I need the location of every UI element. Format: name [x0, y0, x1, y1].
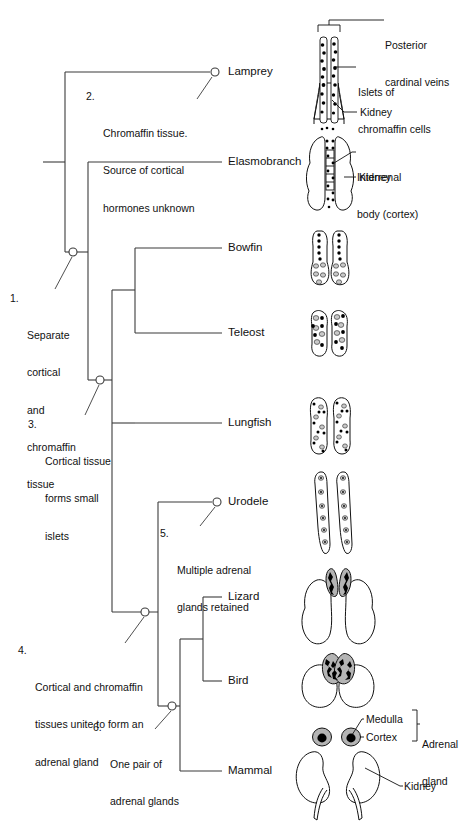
node-circle-lamprey [211, 68, 219, 76]
leader-note-1 [55, 257, 72, 289]
taxon-label-lamprey[interactable]: Lamprey [228, 65, 273, 78]
illus-elasmobranch [306, 127, 356, 210]
note-5: 5. Multiple adrenal glands retained [160, 527, 280, 639]
medulla-left [317, 734, 326, 743]
taxon-label-urodele[interactable]: Urodele [228, 495, 268, 508]
note-1-number: 1. [10, 292, 19, 304]
note-3-line-2: forms small [45, 492, 138, 504]
anno-cortex: Cortex [366, 731, 397, 743]
note-2: 2. Chromaffin tissue. Source of cortical… [86, 90, 236, 239]
illus-bird [302, 653, 374, 707]
anno-medulla: Medulla [366, 713, 403, 725]
note-5-line-2: glands retained [177, 601, 280, 613]
note-3-number: 3. [28, 418, 37, 430]
anno-adrenal-gland: Adrenal gland [422, 713, 458, 812]
note-1-line-3: and [27, 404, 102, 416]
note-2-number: 2. [86, 90, 95, 102]
note-2-line-1: Chromaffin tissue. [103, 127, 236, 139]
anno-kidney-lamprey: Kidney [360, 106, 392, 118]
anno-islets-line-1: Islets of [358, 86, 431, 98]
node-circle-4 [141, 608, 149, 616]
note-3: 3. Cortical tissue forms small islets [28, 418, 138, 567]
taxon-label-lungfish[interactable]: Lungfish [228, 416, 271, 429]
note-6-number: 6. [93, 721, 102, 733]
note-6-line-2: adrenal glands [110, 795, 203, 807]
anno-interrenal-body-cortex: Interrenal body (cortex) [357, 146, 418, 245]
note-3-line-3: islets [45, 530, 138, 542]
taxon-label-mammal[interactable]: Mammal [228, 764, 272, 777]
node-circle-5 [213, 498, 221, 506]
anno-interrenal-line-2: body (cortex) [357, 208, 418, 220]
note-1-line-1: Separate [27, 329, 102, 341]
note-5-line-1: Multiple adrenal [177, 564, 280, 576]
note-2-line-2: Source of cortical [103, 164, 236, 176]
note-3-line-1: Cortical tissue [45, 455, 138, 467]
illus-lungfish [310, 398, 350, 454]
note-6: 6. One pair of adrenal glands [93, 721, 203, 832]
figure-canvas: .br{fill:none;stroke:#3b3b3b;stroke-widt… [0, 0, 475, 832]
taxon-label-teleost[interactable]: Teleost [228, 326, 264, 339]
taxon-label-bird[interactable]: Bird [228, 674, 248, 687]
illus-lizard [302, 569, 375, 644]
anno-kidney-mammal: Kidney [404, 780, 436, 792]
medulla-strands-lizard [328, 572, 349, 595]
illus-bowfin [311, 231, 349, 285]
anno-islets-line-2: chromaffin cells [358, 123, 431, 135]
anno-pcv-line-1: Posterior [385, 39, 449, 51]
illus-urodele [315, 472, 352, 554]
leader-note-5 [200, 507, 215, 526]
node-circle-1 [69, 248, 77, 256]
medulla-right [346, 734, 355, 743]
note-2-line-3: hormones unknown [103, 202, 236, 214]
note-4-line-1: Cortical and chromaffin [35, 681, 178, 693]
taxon-label-elasmobranch[interactable]: Elasmobranch [228, 155, 302, 168]
note-1-line-2: cortical [27, 366, 102, 378]
anno-kidney-elasmobranch: Kidney [359, 171, 391, 183]
note-5-number: 5. [160, 527, 169, 539]
illus-teleost [311, 311, 347, 357]
leader-note-4 [125, 617, 144, 643]
taxon-label-bowfin[interactable]: Bowfin [228, 241, 263, 254]
anno-adrenal-line-1: Adrenal [422, 738, 458, 750]
note-6-line-1: One pair of [110, 758, 203, 770]
illus-mammal [296, 710, 420, 820]
note-4-number: 4. [18, 644, 27, 656]
